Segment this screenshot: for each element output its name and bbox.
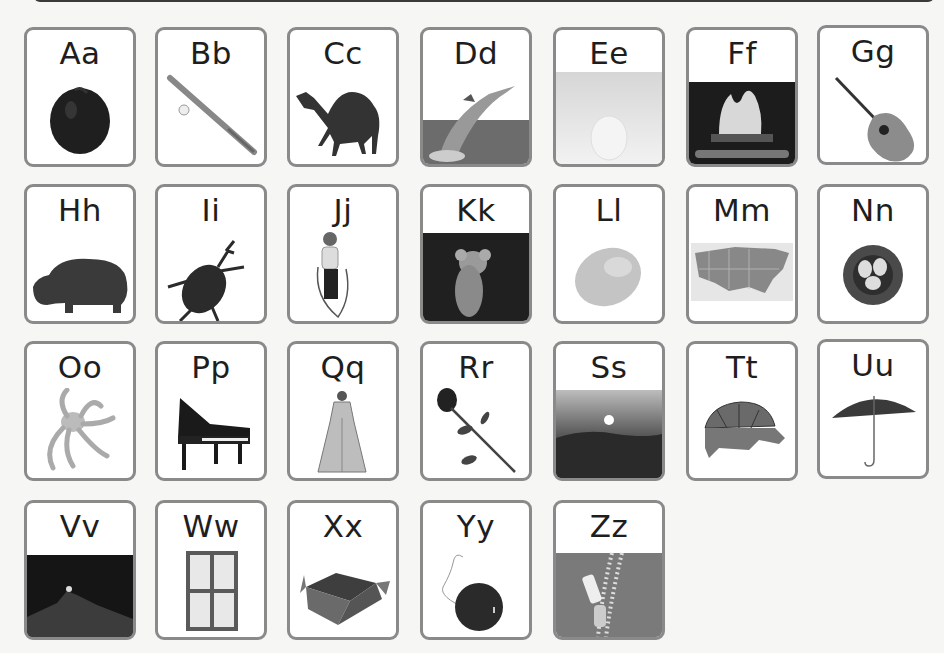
egg-icon (556, 72, 662, 164)
octopus-icon (27, 388, 133, 478)
card-t[interactable]: Tt (686, 341, 798, 481)
card-s[interactable]: Ss (553, 341, 665, 481)
card-v[interactable]: Vv (24, 500, 136, 640)
card-letter: Ll (556, 193, 662, 227)
card-letter: Kk (423, 193, 529, 227)
card-letter: Tt (689, 350, 795, 384)
window-icon (158, 547, 264, 637)
hippo-icon (27, 231, 133, 321)
card-letter: Oo (27, 350, 133, 384)
lemon-icon (556, 231, 662, 321)
camel-icon (290, 74, 396, 164)
jump-rope-girl-icon (290, 231, 396, 321)
card-z[interactable]: Zz (553, 500, 665, 640)
card-letter: Aa (27, 36, 133, 70)
beetle-icon (158, 231, 264, 321)
volcano-icon (27, 545, 133, 637)
card-y[interactable]: Yy (420, 500, 532, 640)
card-letter: Rr (423, 350, 529, 384)
card-letter: Zz (556, 509, 662, 543)
us-map-icon (689, 231, 795, 321)
card-letter: Ss (556, 350, 662, 384)
card-d[interactable]: Dd (420, 27, 532, 167)
card-i[interactable]: Ii (155, 184, 267, 324)
card-u[interactable]: Uu (817, 339, 929, 479)
guitar-icon (820, 72, 926, 162)
card-n[interactable]: Nn (817, 184, 929, 324)
card-j[interactable]: Jj (287, 184, 399, 324)
nest-icon (820, 231, 926, 321)
card-r[interactable]: Rr (420, 341, 532, 481)
card-f[interactable]: Ff (686, 27, 798, 167)
card-w[interactable]: Ww (155, 500, 267, 640)
queen-icon (290, 388, 396, 478)
card-x[interactable]: Xx (287, 500, 399, 640)
card-letter: Dd (423, 36, 529, 70)
card-b[interactable]: Bb (155, 27, 267, 167)
card-a[interactable]: Aa (24, 27, 136, 167)
card-letter: Ff (689, 36, 795, 70)
card-h[interactable]: Hh (24, 184, 136, 324)
card-o[interactable]: Oo (24, 341, 136, 481)
card-letter: Jj (290, 193, 396, 227)
card-c[interactable]: Cc (287, 27, 399, 167)
card-g[interactable]: Gg (817, 25, 929, 165)
card-letter: Cc (290, 36, 396, 70)
dolphin-icon (423, 72, 529, 164)
card-letter: Hh (27, 193, 133, 227)
zipper-icon (556, 545, 662, 637)
card-p[interactable]: Pp (155, 341, 267, 481)
card-k[interactable]: Kk (420, 184, 532, 324)
card-letter: Xx (290, 509, 396, 543)
fireplace-icon (689, 72, 795, 164)
box-icon (290, 547, 396, 637)
card-e[interactable]: Ee (553, 27, 665, 167)
apple-icon (27, 74, 133, 164)
card-m[interactable]: Mm (686, 184, 798, 324)
piano-icon (158, 388, 264, 478)
baseball-bat-icon (158, 74, 264, 164)
card-l[interactable]: Ll (553, 184, 665, 324)
card-q[interactable]: Qq (287, 341, 399, 481)
sunset-icon (556, 386, 662, 478)
card-letter: Pp (158, 350, 264, 384)
rose-icon (423, 388, 529, 478)
top-border-bar (34, 0, 934, 2)
card-letter: Uu (820, 348, 926, 382)
card-letter: Ee (556, 36, 662, 70)
yoyo-icon (423, 547, 529, 637)
card-letter: Nn (820, 193, 926, 227)
card-letter: Bb (158, 36, 264, 70)
card-letter: Ww (158, 509, 264, 543)
card-letter: Ii (158, 193, 264, 227)
koala-icon (423, 229, 529, 321)
card-letter: Mm (689, 193, 795, 227)
card-letter: Gg (820, 34, 926, 68)
card-letter: Vv (27, 509, 133, 543)
card-letter: Yy (423, 509, 529, 543)
umbrella-icon (820, 386, 926, 476)
turtle-icon (689, 388, 795, 478)
card-letter: Qq (290, 350, 396, 384)
